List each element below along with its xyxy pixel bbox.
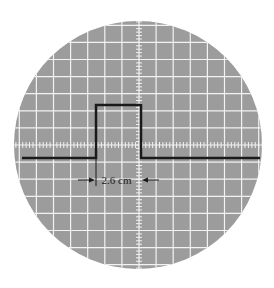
oscilloscope-diagram: 2.6 cm	[0, 0, 274, 288]
pulse-width-label: 2.6 cm	[102, 174, 132, 186]
